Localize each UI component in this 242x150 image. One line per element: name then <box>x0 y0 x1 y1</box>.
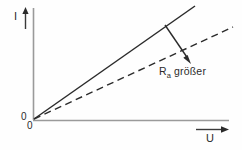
annotation-subscript: a <box>167 71 171 80</box>
annotation-label: Ragrößer <box>159 66 206 80</box>
annotation-arrow-shaft <box>165 25 188 58</box>
annotation-arrowhead-icon <box>183 55 191 64</box>
annotation-text: größer <box>174 65 206 77</box>
i-axis-arrowhead-icon <box>22 7 28 14</box>
iv-characteristic-diagram: I U 0 0 Ragrößer <box>0 0 242 150</box>
y-axis-origin-label: 0 <box>21 112 27 122</box>
u-axis-arrowhead-icon <box>221 126 229 132</box>
y-axis-label: I <box>14 11 18 22</box>
annotation-symbol: R <box>159 65 167 77</box>
x-axis-label: U <box>206 133 214 144</box>
solid-characteristic-line <box>34 6 195 119</box>
x-axis-origin-label: 0 <box>27 121 33 131</box>
